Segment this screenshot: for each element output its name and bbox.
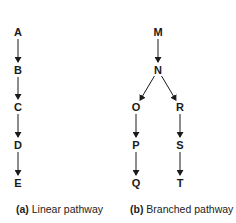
node-o: O	[132, 101, 141, 113]
node-a: A	[14, 26, 22, 38]
node-e: E	[14, 177, 21, 189]
caption-branched-pathway: (b) Branched pathway	[130, 203, 233, 215]
caption-linear-label: (a)	[16, 203, 29, 215]
node-c: C	[14, 101, 22, 113]
node-n: N	[154, 64, 162, 76]
caption-branched-label: (b)	[130, 203, 143, 215]
node-s: S	[176, 139, 183, 151]
caption-linear-pathway: (a) Linear pathway	[16, 203, 103, 215]
node-m: M	[153, 26, 162, 38]
node-r: R	[176, 101, 184, 113]
node-t: T	[177, 177, 184, 189]
arrow-n-to-o	[140, 76, 154, 100]
arrow-n-to-r	[162, 76, 176, 100]
pathway-diagram: ABCDEMNORPSQT	[0, 0, 236, 223]
caption-linear-text: Linear pathway	[32, 203, 103, 215]
node-d: D	[14, 139, 22, 151]
node-q: Q	[132, 177, 141, 189]
node-b: B	[14, 64, 22, 76]
caption-branched-text: Branched pathway	[146, 203, 233, 215]
node-p: P	[132, 139, 139, 151]
